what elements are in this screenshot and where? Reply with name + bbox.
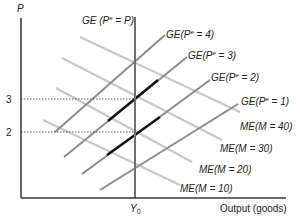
me-label-10: ME(M = 10) xyxy=(180,183,233,194)
ge-label-1: GE(Pe = 1) xyxy=(241,96,289,107)
reference-lines xyxy=(21,99,135,132)
x-tick-y0: Y0 xyxy=(130,203,141,215)
me-line-30 xyxy=(62,58,222,140)
chart-canvas: P 3 2 Y0 Output (goods) GE (Pe = P) GE(P… xyxy=(0,0,300,220)
highlight-ge-2 xyxy=(107,117,160,155)
me-label-40: ME(M = 40) xyxy=(240,121,293,132)
ge-label-3: GE(Pe = 3) xyxy=(188,50,236,61)
me-label-30: ME(M = 30) xyxy=(220,143,273,154)
me-label-20: ME(M = 20) xyxy=(199,164,252,175)
ge-vertical-label: GE (Pe = P) xyxy=(82,15,134,26)
ge-label-2: GE(Pe = 2) xyxy=(211,72,259,83)
ge-label-4: GE(Pe = 4) xyxy=(166,29,214,40)
x-axis-label: Output (goods) xyxy=(220,203,287,214)
y-axis-label: P xyxy=(17,3,24,14)
highlight-segments xyxy=(107,80,160,155)
y-tick-2: 2 xyxy=(6,127,12,138)
ge-line-1 xyxy=(100,104,238,190)
y-tick-3: 3 xyxy=(6,94,12,105)
